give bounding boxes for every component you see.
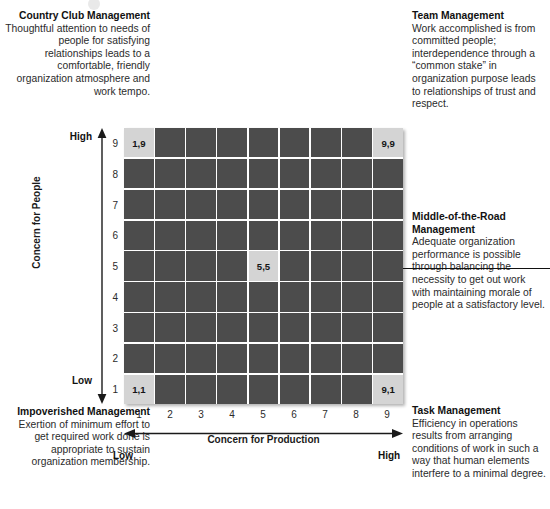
grid-cell-3-4[interactable] — [186, 282, 216, 311]
grid-cell-4-6[interactable] — [217, 221, 247, 250]
grid-cell-5-1[interactable] — [249, 375, 279, 404]
grid-cell-3-2[interactable] — [186, 344, 216, 373]
grid-cell-7-3[interactable] — [311, 313, 341, 342]
grid-cell-9-1[interactable]: 9,1 — [373, 375, 403, 404]
grid-cell-4-8[interactable] — [217, 159, 247, 188]
managerial-grid: 1,9 9,9 — [124, 128, 403, 404]
grid-cell-label-9-9: 9,9 — [373, 137, 403, 148]
grid-cell-2-6[interactable] — [155, 221, 185, 250]
grid-cell-2-7[interactable] — [155, 190, 185, 219]
grid-cell-2-5[interactable] — [155, 251, 185, 280]
grid-cell-7-9[interactable] — [311, 128, 341, 157]
x-tick-2: 2 — [160, 409, 180, 420]
y-tick-7: 7 — [104, 200, 118, 211]
grid-cell-9-2[interactable] — [373, 344, 403, 373]
grid-cell-7-8[interactable] — [311, 159, 341, 188]
grid-cell-2-1[interactable] — [155, 375, 185, 404]
callout-country-club-body: Thoughtful attention to needs of people … — [4, 23, 150, 99]
grid-cell-1-1[interactable]: 1,1 — [124, 375, 154, 404]
y-tick-4: 4 — [104, 292, 118, 303]
grid-cell-7-4[interactable] — [311, 282, 341, 311]
grid-cell-9-6[interactable] — [373, 221, 403, 250]
grid-cell-9-8[interactable] — [373, 159, 403, 188]
grid-cell-1-5[interactable] — [124, 251, 154, 280]
callout-task: Task Management Efficiency in operations… — [412, 405, 546, 481]
grid-cell-1-8[interactable] — [124, 159, 154, 188]
grid-cell-6-9[interactable] — [280, 128, 310, 157]
grid-cell-3-8[interactable] — [186, 159, 216, 188]
grid-cell-1-9[interactable]: 1,9 — [124, 128, 154, 157]
grid-cell-4-2[interactable] — [217, 344, 247, 373]
grid-cell-5-4[interactable] — [249, 282, 279, 311]
grid-cell-9-3[interactable] — [373, 313, 403, 342]
grid-cell-6-8[interactable] — [280, 159, 310, 188]
grid-cell-1-7[interactable] — [124, 190, 154, 219]
grid-cell-8-6[interactable] — [342, 221, 372, 250]
grid-cell-8-8[interactable] — [342, 159, 372, 188]
grid-cell-7-7[interactable] — [311, 190, 341, 219]
y-tick-6: 6 — [104, 230, 118, 241]
grid-cell-9-7[interactable] — [373, 190, 403, 219]
grid-cell-7-5[interactable] — [311, 251, 341, 280]
grid-cell-6-6[interactable] — [280, 221, 310, 250]
y-tick-5: 5 — [104, 261, 118, 272]
grid-cell-6-1[interactable] — [280, 375, 310, 404]
grid-cell-8-2[interactable] — [342, 344, 372, 373]
grid-cell-3-7[interactable] — [186, 190, 216, 219]
grid-cell-6-4[interactable] — [280, 282, 310, 311]
callout-country-club: Country Club Management Thoughtful atten… — [4, 10, 150, 98]
grid-cell-label-1-9: 1,9 — [124, 137, 154, 148]
grid-cell-4-4[interactable] — [217, 282, 247, 311]
grid-cell-3-5[interactable] — [186, 251, 216, 280]
grid-cell-3-3[interactable] — [186, 313, 216, 342]
grid-cell-6-7[interactable] — [280, 190, 310, 219]
grid-cell-5-2[interactable] — [249, 344, 279, 373]
grid-cell-2-2[interactable] — [155, 344, 185, 373]
grid-cell-5-5[interactable]: 5,5 — [249, 251, 279, 280]
decorative-dot — [88, 0, 100, 10]
grid-cell-label-9-1: 9,1 — [373, 384, 403, 395]
grid-cell-8-3[interactable] — [342, 313, 372, 342]
grid-cell-1-6[interactable] — [124, 221, 154, 250]
grid-cell-3-9[interactable] — [186, 128, 216, 157]
grid-cell-4-7[interactable] — [217, 190, 247, 219]
grid-cell-8-4[interactable] — [342, 282, 372, 311]
grid-cell-6-5[interactable] — [280, 251, 310, 280]
x-axis-high-label: High — [378, 450, 400, 461]
grid-cell-5-8[interactable] — [249, 159, 279, 188]
grid-cell-7-6[interactable] — [311, 221, 341, 250]
grid-cell-4-5[interactable] — [217, 251, 247, 280]
grid-cell-8-1[interactable] — [342, 375, 372, 404]
grid-cell-8-9[interactable] — [342, 128, 372, 157]
grid-cell-5-3[interactable] — [249, 313, 279, 342]
grid-cell-8-7[interactable] — [342, 190, 372, 219]
grid-cell-7-2[interactable] — [311, 344, 341, 373]
y-tick-9: 9 — [104, 138, 118, 149]
grid-cell-2-8[interactable] — [155, 159, 185, 188]
grid-cell-5-9[interactable] — [249, 128, 279, 157]
grid-cell-7-1[interactable] — [311, 375, 341, 404]
grid-cell-9-5[interactable] — [373, 251, 403, 280]
callout-middle-heading: Middle-of-the-Road Management — [412, 211, 546, 236]
grid-cell-2-4[interactable] — [155, 282, 185, 311]
grid-cell-3-1[interactable] — [186, 375, 216, 404]
grid-cell-3-6[interactable] — [186, 221, 216, 250]
grid-cell-4-3[interactable] — [217, 313, 247, 342]
grid-cell-1-2[interactable] — [124, 344, 154, 373]
grid-cell-2-9[interactable] — [155, 128, 185, 157]
grid-cell-2-3[interactable] — [155, 313, 185, 342]
grid-cell-1-4[interactable] — [124, 282, 154, 311]
grid-cell-9-9[interactable]: 9,9 — [373, 128, 403, 157]
grid-cell-5-7[interactable] — [249, 190, 279, 219]
grid-cells: 1,9 9,9 — [124, 128, 403, 404]
grid-cell-6-3[interactable] — [280, 313, 310, 342]
grid-cell-4-9[interactable] — [217, 128, 247, 157]
grid-cell-4-1[interactable] — [217, 375, 247, 404]
grid-cell-8-5[interactable] — [342, 251, 372, 280]
grid-cell-1-3[interactable] — [124, 313, 154, 342]
grid-cell-6-2[interactable] — [280, 344, 310, 373]
grid-cell-5-6[interactable] — [249, 221, 279, 250]
y-axis-high-label: High — [52, 131, 92, 142]
grid-cell-9-4[interactable] — [373, 282, 403, 311]
callout-team: Team Management Work accomplished is fro… — [412, 10, 546, 111]
